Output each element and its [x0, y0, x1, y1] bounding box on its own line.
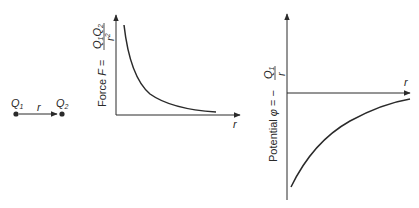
force-curve [124, 25, 216, 112]
force-x-label: r [233, 118, 238, 130]
charge-q1-label: Q1 [11, 97, 24, 110]
force-numerator: Q1Q2 [91, 24, 104, 49]
charge-q1-dot [13, 111, 18, 116]
potential-curve [291, 99, 410, 187]
charges-diagram: Q1 Q2 r [11, 97, 69, 117]
potential-y-label: Potential φ = − Q1 r [262, 66, 287, 162]
potential-numerator: Q1 [262, 66, 275, 79]
potential-plot: r Potential φ = − Q1 r [262, 14, 410, 200]
charge-q2-dot [59, 111, 64, 116]
distance-label: r [37, 101, 42, 113]
potential-x-label: r [404, 76, 409, 88]
force-denominator: r2 [104, 33, 116, 41]
svg-text:Force F =: Force F = [96, 60, 108, 107]
charge-q2-label: Q2 [56, 97, 69, 110]
coulomb-diagram: Q1 Q2 r r Force F = Q1Q2 r2 r Potential … [0, 0, 419, 208]
potential-denominator: r [275, 71, 287, 76]
force-plot: r Force F = Q1Q2 r2 [91, 15, 240, 130]
force-y-label: Force F = Q1Q2 r2 [91, 23, 116, 107]
svg-text:Potential φ = −: Potential φ = − [267, 90, 279, 162]
